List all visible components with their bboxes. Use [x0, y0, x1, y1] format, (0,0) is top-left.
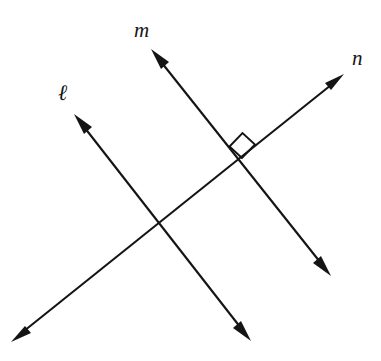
line-m-arrowhead-lower-right — [313, 256, 331, 276]
line-l-stroke — [81, 123, 244, 332]
line-l — [74, 114, 251, 341]
line-m — [151, 49, 331, 276]
line-l-arrowhead-lower-right — [233, 321, 251, 341]
figure-canvas — [0, 0, 381, 361]
geometry-diagram: m n ℓ — [0, 0, 381, 361]
line-m-stroke — [158, 58, 324, 267]
line-n-stroke — [19, 81, 336, 335]
line-n — [11, 74, 344, 342]
line-label-n: n — [352, 48, 363, 69]
line-label-l: ℓ — [58, 82, 67, 104]
line-m-arrowhead-upper-left — [151, 49, 169, 69]
line-label-m: m — [134, 20, 149, 41]
line-l-arrowhead-upper-left — [74, 114, 92, 134]
